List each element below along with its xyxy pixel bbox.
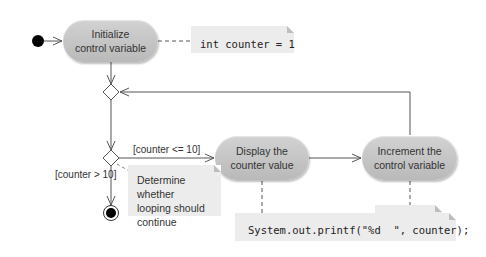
note-decision-comment: Determine whether looping should continu… (128, 165, 221, 216)
guard-exit: [counter > 10] (55, 169, 116, 180)
flow-increment-to-merge (120, 92, 410, 135)
activity-display-line1: Display the (230, 144, 293, 158)
activity-display-line2: counter value (230, 158, 293, 172)
initial-node (32, 35, 44, 47)
note-decision-line2: looping should (137, 201, 221, 215)
note-decision-line1: Determine whether (137, 173, 221, 201)
activity-increment-line2: control variable (374, 158, 445, 172)
decision-diamond (103, 150, 119, 166)
note-decision-line3: continue (137, 215, 221, 229)
activity-initialize-line1: Initialize (75, 27, 146, 41)
note-init-code: int counter = 1 (191, 26, 294, 53)
activity-display: Display the counter value (215, 136, 309, 180)
final-node-dot (106, 208, 116, 218)
note-display-code: System.out.printf("%d ", counter); (235, 213, 456, 241)
activity-increment: Increment the control variable (362, 136, 457, 180)
activity-increment-line1: Increment the (374, 144, 445, 158)
activity-initialize-line2: control variable (75, 41, 146, 55)
merge-diamond (103, 84, 119, 100)
activity-initialize: Initialize control variable (63, 20, 158, 62)
note-display-code-text: System.out.printf("%d ", counter); (248, 224, 469, 236)
note-init-code-text: int counter = 1 (200, 38, 295, 50)
guard-continue: [counter <= 10] (133, 144, 200, 155)
